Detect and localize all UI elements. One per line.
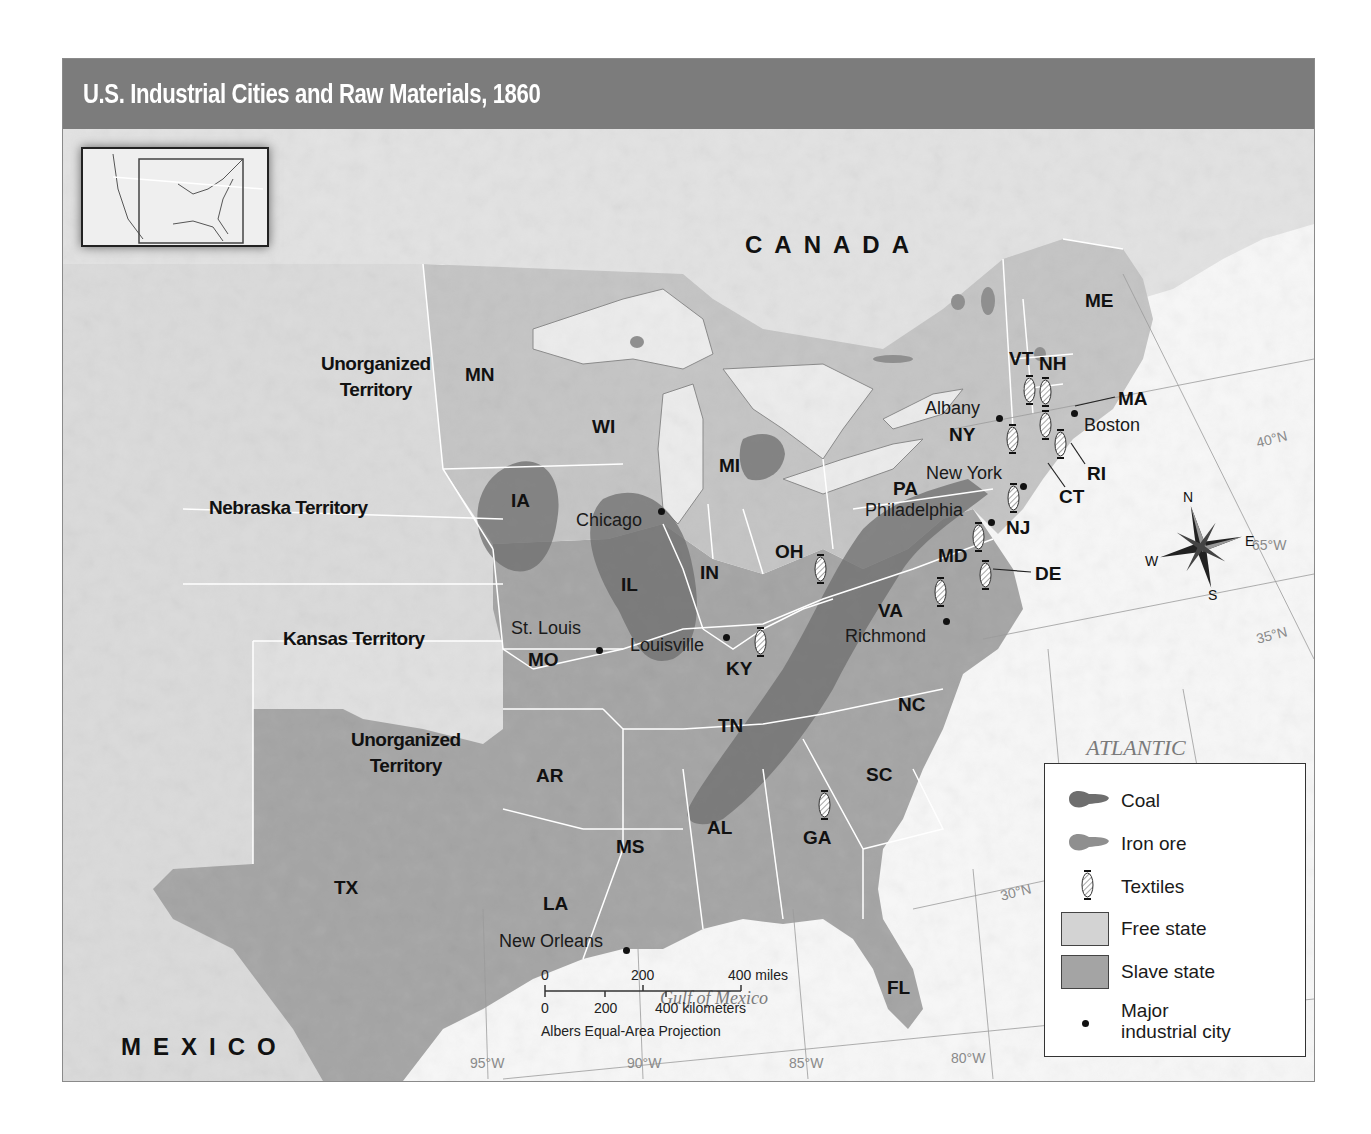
- legend-item-free-state: Free state: [1045, 910, 1305, 950]
- compass-w: W: [1145, 553, 1158, 569]
- city-dot-icon: [1082, 1020, 1089, 1027]
- scale-miles-200: 200: [631, 967, 654, 983]
- legend-item-coal: Coal: [1045, 782, 1305, 822]
- legend-item-slave-state: Slave state: [1045, 953, 1305, 993]
- legend-label-major-industrial-city: Major industrial city: [1121, 1000, 1231, 1042]
- legend-item-iron-ore: Iron ore: [1045, 825, 1305, 865]
- projection-label: Albers Equal-Area Projection: [541, 1023, 721, 1039]
- legend-label-coal: Coal: [1121, 790, 1160, 811]
- legend-label-textiles: Textiles: [1121, 876, 1184, 897]
- coal-icon: [1067, 788, 1111, 810]
- legend: Coal Iron ore Textiles Free state Slave …: [1044, 763, 1306, 1057]
- compass-e: E: [1245, 533, 1254, 549]
- free-state-swatch: [1061, 912, 1109, 946]
- scale-km-400: 400 kilometers: [655, 1000, 746, 1016]
- compass-s: S: [1208, 587, 1217, 603]
- compass-star-icon: [1145, 491, 1255, 601]
- legend-item-major-industrial-city: Major industrial city: [1045, 1000, 1305, 1050]
- iron-ore-icon: [1067, 831, 1111, 853]
- grid-label-65w: 65°W: [1252, 537, 1286, 553]
- legend-label-free-state: Free state: [1121, 918, 1207, 939]
- map-title: U.S. Industrial Cities and Raw Materials…: [83, 79, 540, 110]
- compass-n: N: [1183, 489, 1193, 505]
- legend-label-slave-state: Slave state: [1121, 961, 1215, 982]
- legend-city-line1: Major: [1121, 1000, 1231, 1021]
- scale-km-200: 200: [594, 1000, 617, 1016]
- grid-label-80w: 80°W: [951, 1050, 985, 1066]
- title-bar: U.S. Industrial Cities and Raw Materials…: [63, 59, 1314, 129]
- legend-item-textiles: Textiles: [1045, 868, 1305, 908]
- scale-miles-400: 400 miles: [728, 967, 788, 983]
- scale-km-0: 0: [541, 1000, 549, 1016]
- scale-miles-0: 0: [541, 967, 549, 983]
- textile-icon: [1081, 870, 1094, 900]
- compass-rose: N S E W: [1145, 491, 1255, 601]
- scale-bar: 0 200 400 miles 0 200 400 kilometers Alb…: [533, 967, 833, 1077]
- slave-state-swatch: [1061, 955, 1109, 989]
- legend-label-iron-ore: Iron ore: [1121, 833, 1186, 854]
- grid-label-95w: 95°W: [470, 1055, 504, 1071]
- map-area: CANADA MEXICO ATLANTIC OCEAN Gulf of Mex…: [63, 129, 1314, 1081]
- map-figure: U.S. Industrial Cities and Raw Materials…: [62, 58, 1315, 1082]
- legend-city-line2: industrial city: [1121, 1021, 1231, 1042]
